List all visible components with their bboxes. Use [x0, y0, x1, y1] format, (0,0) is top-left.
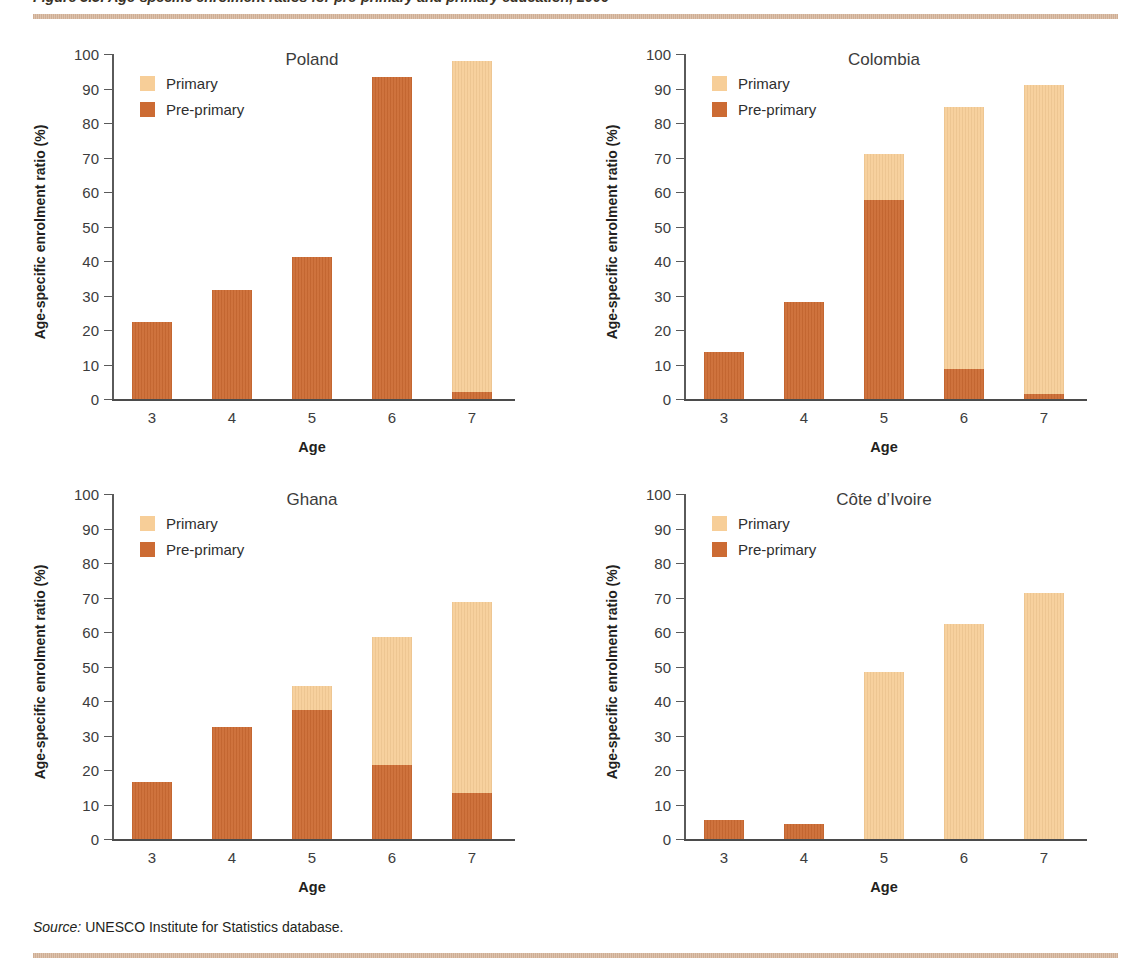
chart-panel-colombia: ColombiaAge-specific enrolment ratio (%)… — [572, 42, 1145, 482]
y-axis-line — [684, 54, 686, 399]
y-tick-mark — [676, 399, 684, 400]
y-tick-mark — [676, 667, 684, 668]
bar-segment-pre-primary[interactable] — [132, 322, 172, 399]
bar-segment-pre-primary[interactable] — [212, 727, 252, 839]
x-axis-line — [112, 839, 515, 841]
y-tick-mark — [676, 701, 684, 702]
y-tick-mark — [676, 365, 684, 366]
bar-group[interactable] — [452, 494, 492, 839]
y-tick-label: 40 — [654, 253, 671, 270]
bar-segment-pre-primary[interactable] — [372, 77, 412, 399]
bar-group[interactable] — [1024, 494, 1064, 839]
bar-segment-primary[interactable] — [292, 686, 332, 710]
figure-caption: Figure 3.5: Age-specific enrolment ratio… — [33, 0, 609, 5]
bar-group[interactable] — [292, 54, 332, 399]
y-tick-label: 60 — [654, 624, 671, 641]
bar-segment-pre-primary[interactable] — [452, 793, 492, 839]
y-tick-label: 80 — [82, 115, 99, 132]
y-tick-mark — [104, 770, 112, 771]
bar-group[interactable] — [944, 494, 984, 839]
legend-item-primary[interactable]: Primary — [140, 70, 244, 96]
x-tick-label: 3 — [148, 849, 156, 866]
y-tick-mark — [104, 701, 112, 702]
y-tick-mark — [104, 563, 112, 564]
bar-segment-pre-primary[interactable] — [292, 710, 332, 839]
y-tick-label: 70 — [82, 149, 99, 166]
y-tick-label: 20 — [82, 762, 99, 779]
x-tick-label: 6 — [388, 849, 396, 866]
bar-group[interactable] — [944, 54, 984, 399]
y-tick-mark — [104, 261, 112, 262]
x-tick-label: 5 — [308, 849, 316, 866]
y-tick-mark — [104, 632, 112, 633]
y-tick-mark — [104, 667, 112, 668]
bar-segment-primary[interactable] — [864, 154, 904, 200]
bar-segment-pre-primary[interactable] — [1024, 394, 1064, 399]
bar-segment-primary[interactable] — [864, 672, 904, 839]
bar-group[interactable] — [864, 54, 904, 399]
bar-group[interactable] — [292, 494, 332, 839]
y-tick-label: 50 — [82, 218, 99, 235]
bar-group[interactable] — [372, 54, 412, 399]
y-tick-label: 10 — [654, 796, 671, 813]
legend-item-pre-primary[interactable]: Pre-primary — [712, 96, 816, 122]
bar-segment-pre-primary[interactable] — [132, 782, 172, 839]
bar-segment-pre-primary[interactable] — [372, 765, 412, 839]
x-axis-label: Age — [684, 879, 1084, 895]
bar-segment-pre-primary[interactable] — [704, 820, 744, 839]
bar-segment-primary[interactable] — [944, 624, 984, 839]
bar-segment-pre-primary[interactable] — [864, 200, 904, 399]
bar-group[interactable] — [452, 54, 492, 399]
bar-segment-pre-primary[interactable] — [452, 392, 492, 399]
y-tick-mark — [676, 770, 684, 771]
y-axis-line — [112, 494, 114, 839]
y-tick-mark — [676, 227, 684, 228]
x-tick-label: 6 — [388, 409, 396, 426]
bar-segment-primary[interactable] — [452, 602, 492, 793]
legend-item-primary[interactable]: Primary — [712, 510, 816, 536]
x-tick-label: 4 — [800, 409, 808, 426]
legend-swatch-pre-primary — [712, 102, 727, 117]
y-axis-line — [112, 54, 114, 399]
y-tick-label: 90 — [82, 520, 99, 537]
y-tick-mark — [104, 494, 112, 495]
x-axis-line — [112, 399, 515, 401]
bar-segment-primary[interactable] — [452, 61, 492, 392]
bar-segment-pre-primary[interactable] — [704, 352, 744, 399]
bar-segment-primary[interactable] — [1024, 593, 1064, 839]
x-axis-line — [684, 399, 1087, 401]
bar-segment-pre-primary[interactable] — [292, 257, 332, 399]
legend-item-primary[interactable]: Primary — [140, 510, 244, 536]
y-tick-mark — [104, 123, 112, 124]
legend-item-primary[interactable]: Primary — [712, 70, 816, 96]
y-tick-mark — [676, 296, 684, 297]
bar-group[interactable] — [1024, 54, 1064, 399]
legend-item-pre-primary[interactable]: Pre-primary — [712, 536, 816, 562]
bar-group[interactable] — [864, 494, 904, 839]
x-tick-label: 5 — [880, 409, 888, 426]
y-tick-label: 90 — [654, 80, 671, 97]
bar-segment-pre-primary[interactable] — [784, 302, 824, 399]
y-tick-label: 30 — [654, 727, 671, 744]
legend-swatch-primary — [140, 76, 155, 91]
y-tick-mark — [676, 494, 684, 495]
legend-swatch-pre-primary — [140, 102, 155, 117]
bar-segment-primary[interactable] — [372, 637, 412, 765]
y-tick-label: 0 — [91, 391, 99, 408]
y-tick-mark — [676, 839, 684, 840]
x-tick-label: 5 — [880, 849, 888, 866]
bar-segment-pre-primary[interactable] — [212, 290, 252, 399]
bar-segment-pre-primary[interactable] — [784, 824, 824, 839]
legend-item-pre-primary[interactable]: Pre-primary — [140, 536, 244, 562]
legend-label: Pre-primary — [738, 101, 816, 118]
bar-segment-primary[interactable] — [1024, 85, 1064, 394]
bar-segment-pre-primary[interactable] — [944, 369, 984, 399]
legend-item-pre-primary[interactable]: Pre-primary — [140, 96, 244, 122]
source-text: UNESCO Institute for Statistics database… — [81, 919, 343, 935]
bar-group[interactable] — [372, 494, 412, 839]
bar-segment-primary[interactable] — [944, 107, 984, 369]
y-tick-mark — [104, 598, 112, 599]
y-tick-label: 20 — [82, 322, 99, 339]
legend-label: Pre-primary — [166, 101, 244, 118]
legend: PrimaryPre-primary — [140, 70, 244, 122]
